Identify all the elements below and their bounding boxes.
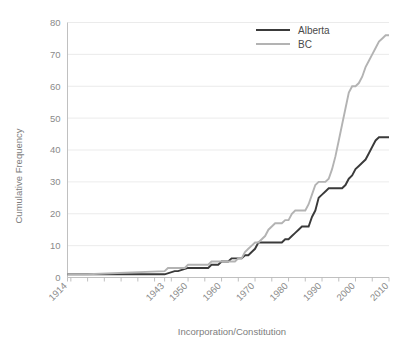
y-tick-label-10: 10 [50,240,61,251]
x-tick-label-1960: 1960 [200,280,223,303]
x-axis-title: Incorporation/Constitution [178,326,286,337]
y-axis-tick-labels: 01020304050607080 [50,17,61,283]
x-tick-label-1950: 1950 [167,280,190,303]
legend-label-bc: BC [298,39,312,50]
y-axis-title: Cumulative Frequency [13,128,24,223]
y-tick-label-50: 50 [50,113,61,124]
series-line-bc [68,35,390,274]
y-tick-label-20: 20 [50,208,61,219]
x-tick-label-1914: 1914 [46,280,69,303]
x-axis-ticks [68,278,390,282]
y-tick-label-30: 30 [50,176,61,187]
series-line-alberta [68,137,390,274]
x-tick-label-1980: 1980 [267,280,290,303]
y-tick-label-40: 40 [50,144,61,155]
y-tick-label-80: 80 [50,17,61,28]
y-tick-label-70: 70 [50,49,61,60]
y-tick-label-60: 60 [50,81,61,92]
x-tick-label-2010: 2010 [368,280,391,303]
x-tick-label-1943: 1943 [143,280,166,303]
data-series [68,35,390,274]
x-axis-tick-labels: 191419431950196019701980199020002010 [46,280,390,303]
x-tick-label-2000: 2000 [334,280,357,303]
chart-legend: AlbertaBC [256,25,330,50]
chart-canvas: 01020304050607080 1914194319501960197019… [0,0,419,352]
x-tick-label-1970: 1970 [234,280,257,303]
cumulative-frequency-chart: 01020304050607080 1914194319501960197019… [0,0,419,352]
legend-label-alberta: Alberta [298,25,330,36]
x-tick-label-1990: 1990 [301,280,324,303]
